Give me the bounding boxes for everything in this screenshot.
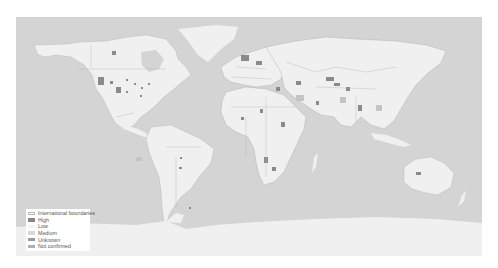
legend-label: Medium [38, 230, 57, 236]
legend-swatch-unknown [28, 238, 35, 242]
legend-item-international-boundaries: International boundaries [28, 210, 88, 217]
legend-swatch-low [28, 225, 35, 229]
legend-swatch-not-confirmed [28, 245, 35, 249]
legend-label: Unknown [38, 237, 60, 243]
legend-swatch-high [28, 218, 35, 222]
legend-item-unknown: Unknown [28, 236, 88, 243]
legend-label: High [38, 217, 49, 223]
legend-item-low: Low [28, 223, 88, 230]
legend-item-not-confirmed: Not confirmed [28, 243, 88, 250]
legend-label: Not confirmed [38, 243, 71, 249]
legend-swatch-medium [28, 231, 35, 235]
legend-label: International boundaries [38, 210, 95, 216]
legend-item-medium: Medium [28, 230, 88, 237]
legend-label: Low [38, 223, 48, 229]
legend-swatch-boundaries [28, 212, 35, 216]
map-legend: International boundaries High Low Medium… [26, 209, 90, 251]
legend-item-high: High [28, 217, 88, 224]
